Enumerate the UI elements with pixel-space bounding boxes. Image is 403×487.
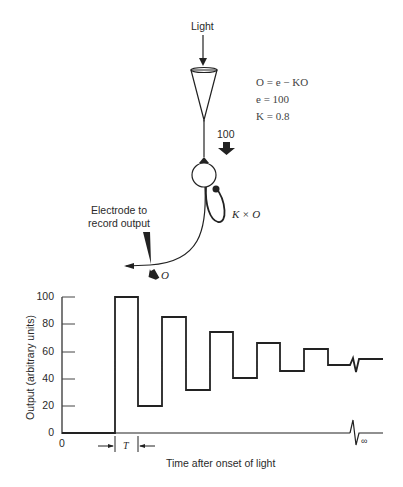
electrode-label-line2: record output	[73, 217, 165, 229]
cell-body-icon	[192, 163, 216, 187]
cone-receptor-icon	[191, 68, 217, 158]
diagram-canvas	[0, 0, 403, 487]
equation-line-1: O = e − KO	[256, 74, 308, 91]
electrode-label-line1: Electrode to	[73, 204, 165, 216]
light-label: Light	[191, 20, 214, 32]
chart-axes	[62, 297, 383, 445]
y-tick-60: 60	[28, 345, 54, 357]
y-tick-100: 100	[28, 290, 54, 302]
input-value-label: 100	[217, 128, 235, 140]
x-origin-label: 0	[59, 437, 65, 449]
electrode-icon	[143, 232, 151, 264]
feedback-label: K × O	[232, 208, 260, 220]
y-tick-20: 20	[28, 399, 54, 411]
output-arrow-icon	[146, 267, 160, 282]
synapse-icon	[199, 157, 209, 163]
output-label: O	[161, 269, 169, 281]
delay-label: T	[123, 440, 129, 451]
feedback-loop-icon	[206, 186, 225, 223]
input-arrow-icon	[218, 142, 235, 155]
infinity-label: ∞	[361, 436, 367, 446]
equation-line-3: K = 0.8	[256, 108, 308, 125]
equation-line-2: e = 100	[256, 91, 308, 108]
y-tick-0: 0	[28, 426, 54, 438]
y-tick-40: 40	[28, 372, 54, 384]
x-axis-label: Time after onset of light	[166, 457, 275, 469]
equation-block: O = e − KO e = 100 K = 0.8	[256, 74, 308, 125]
axon-arrowhead-icon	[124, 263, 134, 269]
light-arrow-icon	[199, 35, 207, 66]
output-trace	[62, 297, 383, 433]
y-tick-80: 80	[28, 317, 54, 329]
